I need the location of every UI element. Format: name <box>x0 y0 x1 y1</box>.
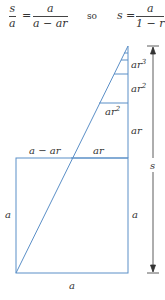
label-s: s <box>150 160 155 171</box>
label-ar-right: ar <box>131 125 143 136</box>
label-a-left: a <box>5 209 11 220</box>
geometric-series-diagram: ar3 ar2 ar2 ar ar a − ar a a a s <box>0 0 165 300</box>
label-a-right: a <box>132 209 138 220</box>
arrow-up-icon <box>151 47 156 54</box>
square <box>16 158 128 273</box>
label-ar-top: ar <box>93 145 105 156</box>
arrow-down-icon <box>151 265 156 272</box>
label-a-minus-ar: a − ar <box>29 145 62 156</box>
label-ar3: ar3 <box>131 58 147 70</box>
label-a-bottom: a <box>69 280 75 291</box>
label-ar2-right: ar2 <box>131 82 147 94</box>
label-ar2-left: ar2 <box>105 105 121 117</box>
hypotenuse <box>16 46 128 273</box>
